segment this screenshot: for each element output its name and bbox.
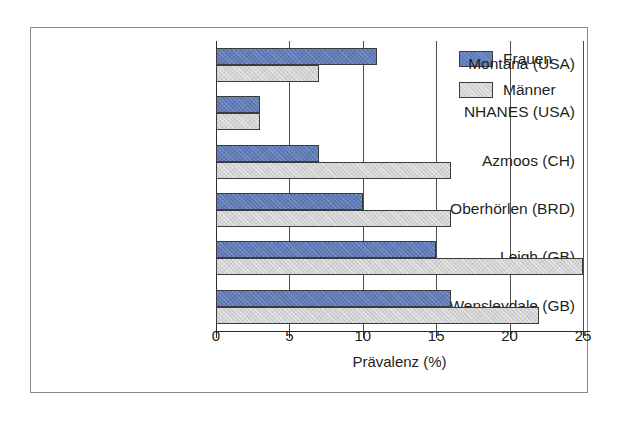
category-label: Azmoos (CH) bbox=[482, 152, 575, 170]
x-tick-label-15: 15 bbox=[428, 327, 445, 344]
x-tick-label-20: 20 bbox=[501, 327, 518, 344]
x-tick-label-25: 25 bbox=[575, 327, 592, 344]
bar-row: Oberhörlen (BRD) bbox=[216, 186, 583, 234]
x-tick-label-0: 0 bbox=[212, 327, 220, 344]
bar-row: Azmoos (CH) bbox=[216, 138, 583, 186]
bar-männer-5 bbox=[216, 307, 539, 324]
category-label: Montana (USA) bbox=[468, 55, 575, 73]
bar-row: Montana (USA) bbox=[216, 41, 583, 89]
bar-männer-2 bbox=[216, 162, 451, 179]
bar-row: Wensleydale (GB) bbox=[216, 283, 583, 331]
category-label: Oberhörlen (BRD) bbox=[450, 200, 575, 218]
bar-frauen-1 bbox=[216, 96, 260, 113]
bar-frauen-5 bbox=[216, 290, 451, 307]
bar-männer-3 bbox=[216, 210, 451, 227]
bar-row: NHANES (USA) bbox=[216, 89, 583, 137]
bar-männer-1 bbox=[216, 113, 260, 130]
category-label: NHANES (USA) bbox=[464, 103, 575, 121]
bar-frauen-3 bbox=[216, 193, 363, 210]
chart-figure: Frauen Männer Montana (USA)NHANES (USA)A… bbox=[30, 27, 588, 393]
bar-row: Leigh (GB) bbox=[216, 234, 583, 282]
bar-männer-0 bbox=[216, 65, 319, 82]
bar-frauen-0 bbox=[216, 48, 377, 65]
bar-frauen-4 bbox=[216, 241, 436, 258]
bar-männer-4 bbox=[216, 258, 583, 275]
gridline-25 bbox=[583, 41, 584, 331]
x-tick-label-5: 5 bbox=[285, 327, 293, 344]
bar-frauen-2 bbox=[216, 145, 319, 162]
plot-area: Montana (USA)NHANES (USA)Azmoos (CH)Ober… bbox=[216, 41, 583, 331]
x-tick-label-10: 10 bbox=[354, 327, 371, 344]
x-axis-label: Prävalenz (%) bbox=[216, 353, 583, 370]
x-axis-line bbox=[216, 331, 584, 332]
